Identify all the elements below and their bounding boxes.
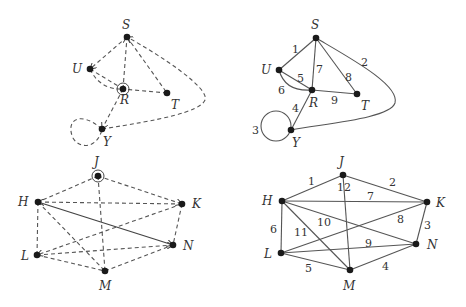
node-t (354, 91, 361, 98)
edge-2 (291, 38, 395, 130)
label-j: J (91, 155, 100, 169)
edge-label-2: 2 (361, 56, 368, 69)
node-l (278, 250, 285, 257)
edge-label-10: 10 (317, 216, 331, 229)
label-k: K (191, 197, 202, 211)
edge-7 (282, 201, 427, 202)
edge-label-3: 3 (252, 124, 259, 137)
edge-label-5: 5 (305, 262, 312, 275)
edge-label-9: 9 (365, 237, 372, 250)
label-r: R (119, 93, 129, 107)
label-h: H (261, 194, 273, 208)
edge-y-s-curve (102, 37, 205, 129)
node-s (313, 35, 320, 42)
node-s (124, 34, 131, 41)
label-u: U (261, 63, 272, 77)
edge-s-u (90, 37, 127, 69)
label-r: R (308, 96, 318, 110)
label-j: J (336, 155, 345, 169)
edge-3-loop (261, 111, 291, 141)
edge-label-5: 5 (297, 72, 304, 85)
node-l (34, 252, 41, 259)
edge-label-6: 6 (270, 223, 277, 236)
label-l: L (263, 247, 272, 261)
edge-j-k (98, 176, 182, 204)
node-m (102, 268, 109, 275)
node-k (179, 201, 186, 208)
edge-5 (281, 253, 350, 270)
node-y (99, 126, 106, 133)
node-m (347, 267, 354, 274)
edge-l-m (37, 255, 105, 271)
edge-label-6: 6 (278, 84, 285, 97)
edge-k-l (37, 204, 182, 255)
node-t (164, 90, 171, 97)
label-k: K (435, 196, 446, 210)
edge-k-n (173, 204, 182, 245)
label-y: Y (103, 135, 112, 149)
label-s: S (311, 18, 319, 32)
node-u (87, 66, 94, 73)
label-t: T (361, 99, 370, 113)
label-l: L (20, 249, 29, 263)
edge-r-s (123, 37, 127, 89)
graph-diagrams-canvas: S U R T Y S U R T Y 1 2 3 4 5 6 7 8 9 (0, 0, 466, 307)
node-y (288, 127, 295, 134)
label-u: U (72, 62, 83, 76)
label-h: H (17, 195, 29, 209)
node-k (424, 199, 431, 206)
label-s: S (122, 18, 130, 32)
edge-label-7: 7 (367, 190, 374, 203)
graph-bottom-left: J H K N L M (17, 155, 202, 293)
edge-6 (281, 201, 282, 253)
edge-s-t (127, 37, 167, 93)
edge-l-n (37, 245, 173, 255)
node-r (120, 86, 127, 93)
edge-label-4: 4 (382, 260, 389, 273)
node-n (413, 241, 420, 248)
graph-bottom-right: J H K N L M 1 2 3 4 5 6 7 8 9 10 11 12 (261, 155, 446, 293)
node-n (170, 242, 177, 249)
edge-label-2: 2 (389, 176, 396, 189)
edge-y-loop (71, 119, 102, 146)
edge-label-12: 12 (337, 181, 351, 194)
node-r (309, 87, 316, 94)
edge-2 (343, 175, 427, 202)
graph-top-right: S U R T Y 1 2 3 4 5 6 7 8 9 (252, 18, 395, 150)
edge-label-8: 8 (397, 213, 404, 226)
edge-label-4: 4 (292, 102, 299, 115)
node-h (35, 199, 42, 206)
label-n: N (182, 239, 194, 253)
label-y: Y (292, 136, 301, 150)
edge-k-h (38, 202, 182, 204)
node-u (276, 67, 283, 74)
edge-j-h (38, 176, 98, 202)
label-t: T (171, 98, 180, 112)
node-h (279, 198, 286, 205)
edge-label-11: 11 (294, 226, 308, 239)
edge-label-3: 3 (424, 219, 431, 232)
edge-label-8: 8 (345, 71, 352, 84)
edge-t-r (123, 89, 167, 93)
edge-label-9: 9 (331, 94, 338, 107)
label-n: N (426, 238, 438, 252)
edge-label-1: 1 (308, 175, 315, 188)
edge-label-7: 7 (316, 63, 323, 76)
label-m: M (342, 279, 356, 293)
node-j (95, 173, 102, 180)
label-m: M (98, 279, 112, 293)
edge-label-1: 1 (292, 43, 299, 56)
graph-top-left: S U R T Y (71, 18, 206, 149)
node-j (340, 172, 347, 179)
edge-h-l (37, 202, 38, 255)
